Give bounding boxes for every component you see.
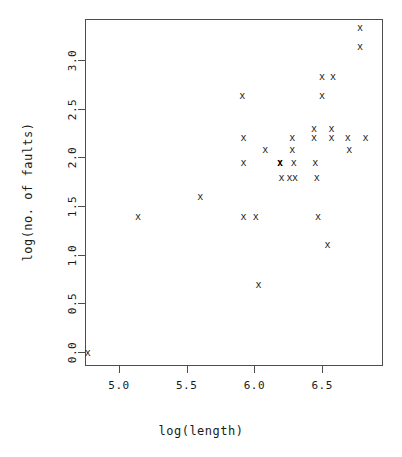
- x-axis-title: log(length): [0, 424, 402, 438]
- x-tick-label-5.0: 5.0: [108, 379, 129, 392]
- y-axis-title: log(no. of faults): [21, 42, 35, 342]
- y-tick-label-1.5: 1.5: [66, 196, 79, 217]
- y-tick-label-0.5: 0.5: [66, 293, 79, 314]
- plot-frame: [85, 19, 383, 366]
- y-tick-1.0: [78, 255, 85, 256]
- x-tick-label-6.0: 6.0: [244, 379, 265, 392]
- scatter-plot-figure: 5.05.56.06.5 0.00.51.01.52.02.53.0 xxxxx…: [0, 0, 402, 457]
- x-tick-5.0: [119, 366, 120, 373]
- x-tick-label-6.5: 6.5: [311, 379, 332, 392]
- y-tick-label-2.0: 2.0: [66, 147, 79, 168]
- x-tick-6.0: [254, 366, 255, 373]
- y-tick-0.5: [78, 303, 85, 304]
- x-tick-5.5: [187, 366, 188, 373]
- x-tick-label-5.5: 5.5: [176, 379, 197, 392]
- y-tick-2.5: [78, 109, 85, 110]
- y-tick-label-1.0: 1.0: [66, 244, 79, 265]
- y-tick-label-0.0: 0.0: [66, 342, 79, 363]
- x-tick-6.5: [322, 366, 323, 373]
- y-tick-3.0: [78, 60, 85, 61]
- y-tick-1.5: [78, 206, 85, 207]
- y-tick-label-3.0: 3.0: [66, 50, 79, 71]
- y-tick-0.0: [78, 352, 85, 353]
- y-tick-2.0: [78, 157, 85, 158]
- y-tick-label-2.5: 2.5: [66, 98, 79, 119]
